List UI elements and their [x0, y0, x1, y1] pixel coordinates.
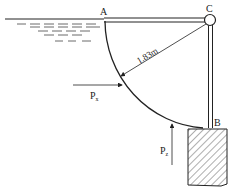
- label-b: B: [214, 117, 221, 128]
- foundation-block: [188, 129, 227, 186]
- label-a: A: [100, 6, 108, 17]
- label-pz: Pz: [160, 145, 169, 157]
- top-beam: [104, 18, 205, 22]
- water-surface: [5, 19, 104, 41]
- label-px: Px: [90, 90, 99, 102]
- vertical-strut: [209, 25, 213, 128]
- gate-diagram: A C B 1.83m Px Pz: [0, 0, 231, 194]
- gate-arc: [105, 21, 203, 128]
- radius-line: [121, 24, 206, 76]
- label-c: C: [206, 3, 213, 14]
- label-radius: 1.83m: [135, 45, 160, 65]
- hinge-c: [205, 15, 216, 26]
